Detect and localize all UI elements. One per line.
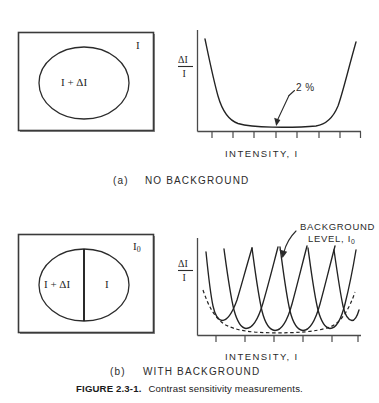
figure-graphics — [0, 0, 379, 403]
panel-a-annotation-leader — [274, 91, 294, 127]
panel-a-ylabel-denominator: I — [183, 69, 186, 79]
panel-a-x-ticks — [212, 132, 361, 139]
panel-a-caption-index: (a) — [113, 176, 129, 186]
panel-a-ylabel-numerator: ΔI — [178, 55, 188, 65]
panel-b-plot — [178, 231, 361, 342]
panel-b-x-ticks — [216, 336, 358, 343]
panel-b-surround-label: I0 — [133, 241, 141, 254]
figure-caption-label: FIGURE 2.3-1. — [76, 383, 141, 394]
panel-b-parabola-3 — [252, 246, 307, 331]
panel-b-x-axis-label: INTENSITY, I — [225, 352, 299, 362]
panel-b-target-label-left: I + ΔI — [44, 279, 70, 290]
panel-b-annotation-line2: LEVEL, I0 — [308, 233, 355, 246]
panel-a-plot — [178, 30, 361, 138]
panel-b-annotation-line2-subscript: 0 — [351, 238, 355, 245]
panel-b-ylabel-numerator: ΔI — [178, 259, 188, 269]
panel-b-ylabel-denominator: I — [183, 273, 186, 283]
panel-b-parabola-6 — [334, 250, 359, 321]
panel-b-surround-label-subscript: 0 — [137, 245, 141, 254]
figure-caption: FIGURE 2.3-1.Contrast sensitivity measur… — [0, 383, 379, 394]
panel-b-annotation-line1: BACKGROUND — [300, 221, 375, 233]
panel-b-annotation-line2-base: LEVEL, I — [308, 233, 351, 244]
figure-caption-text: Contrast sensitivity measurements. — [149, 383, 303, 394]
figure-container: I I + ΔI ΔI I 2 % INTENSITY, I (a) NO BA… — [0, 0, 379, 403]
panel-a-arrowhead — [274, 118, 280, 126]
panel-b-target-label-right: I — [105, 279, 109, 290]
panel-b-parabola-4 — [280, 246, 335, 331]
panel-a-surround-label: I — [136, 40, 140, 51]
panel-b-caption-title: WITH BACKGROUND — [143, 367, 260, 377]
panel-a-annotation-2-percent: 2 % — [296, 83, 314, 93]
panel-a-caption-title: NO BACKGROUND — [145, 176, 249, 186]
panel-b-parabola-2 — [224, 247, 278, 329]
panel-b-envelope-curve — [203, 290, 355, 333]
panel-b-annotation-leader — [279, 231, 296, 258]
panel-a-x-axis-label: INTENSITY, I — [225, 149, 299, 159]
panel-b-caption-index: (b) — [110, 367, 126, 377]
panel-a-target-label: I + ΔI — [61, 77, 87, 88]
